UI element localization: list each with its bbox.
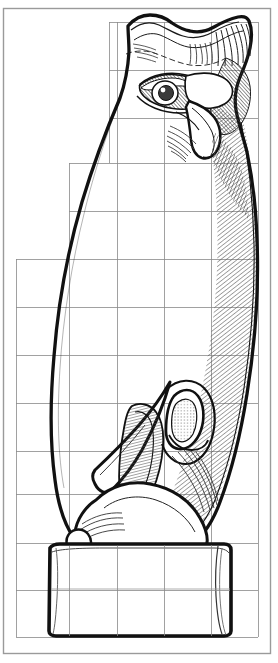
drawing-plate (0, 0, 278, 663)
falcon-line-drawing (0, 0, 278, 663)
